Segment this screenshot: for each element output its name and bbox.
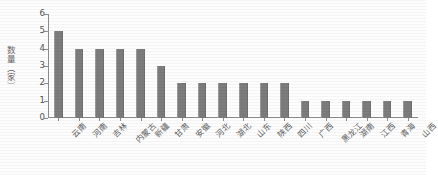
bar: [75, 49, 84, 118]
x-axis-category-label: 青海: [398, 120, 417, 139]
y-axis-tick-label: 4: [40, 43, 45, 53]
y-axis-tick-label: 0: [40, 112, 45, 122]
bar: [239, 83, 248, 118]
x-axis-category-label: 江西: [377, 120, 396, 139]
bar: [280, 83, 289, 118]
x-axis-category-label: 河南: [90, 120, 109, 139]
bar: [342, 101, 351, 118]
x-axis-category-label: 甘肃: [172, 120, 191, 139]
bar: [301, 101, 310, 118]
bar: [383, 101, 392, 118]
x-axis-category-label: 云南: [69, 120, 88, 139]
x-axis-category-label: 广西: [316, 120, 335, 139]
x-axis-category-label: 安徽: [192, 120, 211, 139]
x-axis-category-label: 河北: [213, 120, 232, 139]
plot-area: 0123456: [48, 14, 418, 118]
y-axis-title: 数量（家）: [2, 18, 18, 118]
bar: [54, 31, 63, 118]
bar: [321, 101, 330, 118]
bar: [116, 49, 125, 118]
bar: [157, 66, 166, 118]
y-axis-tick-label: 5: [40, 25, 45, 35]
bar: [260, 83, 269, 118]
bar: [218, 83, 227, 118]
bar: [177, 83, 186, 118]
y-axis-tick-label: 2: [40, 77, 45, 87]
x-axis-category-label: 四川: [295, 120, 314, 139]
x-axis-category-label: 山东: [254, 120, 273, 139]
bar: [198, 83, 207, 118]
bar: [95, 49, 104, 118]
x-axis-category-label: 陕西: [275, 120, 294, 139]
bar: [403, 101, 412, 118]
bar: [362, 101, 371, 118]
bar-series: [48, 14, 418, 118]
y-axis-tick-label: 1: [40, 95, 45, 105]
y-axis-tick-label: 6: [40, 8, 45, 18]
x-axis-category-label: 湖北: [233, 120, 252, 139]
x-axis-category-labels: 云南河南吉林内蒙古新疆甘肃安徽河北湖北山东陕西四川广西黑龙江湖南江西青海山西: [48, 120, 426, 175]
x-axis-category-label: 山西: [418, 120, 437, 139]
x-axis-category-label: 吉林: [110, 120, 129, 139]
bar: [136, 49, 145, 118]
y-axis-tick-label: 3: [40, 60, 45, 70]
x-axis-category-label: 新疆: [151, 120, 170, 139]
